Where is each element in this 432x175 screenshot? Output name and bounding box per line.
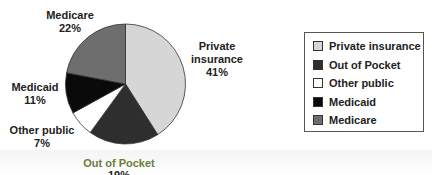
label-out-of-pocket-line1: Out of Pocket xyxy=(83,157,155,169)
legend-label: Other public xyxy=(329,77,394,89)
legend-label: Medicare xyxy=(329,114,377,126)
label-medicare-line1: Medicare xyxy=(46,9,94,21)
legend-label: Private insurance xyxy=(329,40,421,52)
legend-item-out-of-pocket: Out of Pocket xyxy=(313,56,423,75)
label-other-public-value: 7% xyxy=(34,137,50,149)
label-medicaid-line1: Medicaid xyxy=(11,81,58,93)
legend-item-medicaid: Medicaid xyxy=(313,93,423,112)
label-other-public-line1: Other public xyxy=(10,124,75,136)
label-out-of-pocket-value: 19% xyxy=(108,169,130,175)
legend-swatch xyxy=(313,41,323,51)
legend-swatch xyxy=(313,78,323,88)
legend-label: Out of Pocket xyxy=(329,59,401,71)
legend: Private insurance Out of Pocket Other pu… xyxy=(304,32,424,132)
label-private-line2: insurance xyxy=(191,53,243,65)
label-medicare-value: 22% xyxy=(59,22,81,34)
label-private-value: 41% xyxy=(206,66,228,78)
label-medicaid-value: 11% xyxy=(24,94,46,106)
legend-label: Medicaid xyxy=(329,96,376,108)
legend-item-medicare: Medicare xyxy=(313,111,423,130)
legend-swatch xyxy=(313,60,323,70)
legend-swatch xyxy=(313,115,323,125)
legend-swatch xyxy=(313,97,323,107)
legend-item-private-insurance: Private insurance xyxy=(313,37,423,56)
legend-item-other-public: Other public xyxy=(313,74,423,93)
label-private-line1: Private xyxy=(199,40,236,52)
